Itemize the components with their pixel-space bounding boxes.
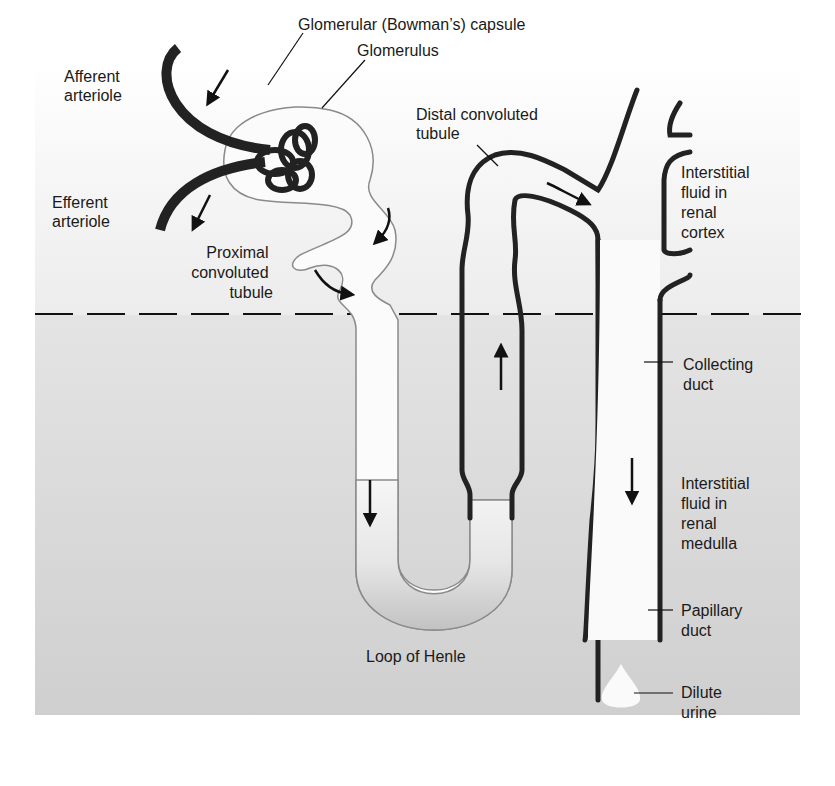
label-bowmans-capsule: Glomerular (Bowman’s) capsule	[298, 16, 525, 33]
nephron-diagram: Afferent arteriole Efferent arteriole Gl…	[0, 0, 835, 786]
label-glomerulus: Glomerulus	[357, 42, 439, 59]
label-loop-of-henle: Loop of Henle	[366, 648, 466, 665]
